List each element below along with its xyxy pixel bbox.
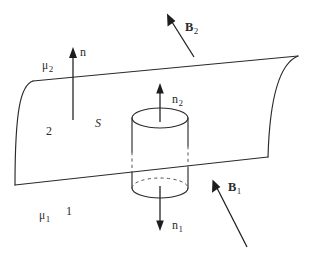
- vector-normal-surface: [69, 47, 77, 120]
- label-region-upper-base: 2: [46, 124, 52, 138]
- label-mu-upper-base: μ: [42, 59, 48, 71]
- label-normal-lower: n1: [172, 216, 183, 234]
- label-region-lower: 1: [66, 202, 72, 218]
- label-field-lower-base: B: [228, 180, 236, 194]
- label-mu-lower-base: μ: [39, 209, 45, 221]
- label-field-upper: B2: [185, 18, 198, 36]
- label-surface-base: S: [95, 116, 101, 130]
- surface-right-edge: [268, 56, 298, 157]
- label-field-lower: B1: [228, 178, 241, 196]
- vector-normal-lower: [156, 186, 164, 231]
- label-normal-upper: n2: [172, 90, 183, 108]
- label-mu-lower-sub: 1: [46, 214, 51, 224]
- normal-surface-arrowhead: [69, 47, 77, 58]
- boundary-surface-group: [15, 56, 298, 185]
- label-normal-surface-base: n: [80, 45, 86, 59]
- normal-lower-arrowhead: [156, 221, 164, 232]
- label-field-upper-base: B: [185, 20, 193, 34]
- surface-left-edge: [15, 81, 33, 185]
- label-field-upper-sub: 2: [194, 26, 199, 36]
- label-field-lower-sub: 1: [237, 186, 242, 196]
- label-region-upper: 2: [46, 122, 52, 138]
- vector-normal-upper: [156, 83, 164, 122]
- label-normal-surface: n: [80, 43, 86, 59]
- normal-upper-arrowhead: [156, 83, 164, 94]
- label-mu-upper: μ2: [42, 56, 53, 74]
- label-normal-lower-base: n: [172, 218, 178, 232]
- label-surface: S: [95, 114, 101, 130]
- label-normal-upper-base: n: [172, 92, 178, 106]
- label-mu-upper-sub: 2: [49, 64, 54, 74]
- label-region-lower-base: 1: [66, 204, 72, 218]
- label-normal-upper-sub: 2: [179, 98, 184, 108]
- field-lower-shaft: [217, 188, 247, 247]
- label-mu-lower: μ1: [39, 206, 50, 224]
- physics-diagram: μ2 n B2 n2 2 S B1 μ1 1 n1: [0, 0, 310, 267]
- label-normal-lower-sub: 1: [179, 224, 184, 234]
